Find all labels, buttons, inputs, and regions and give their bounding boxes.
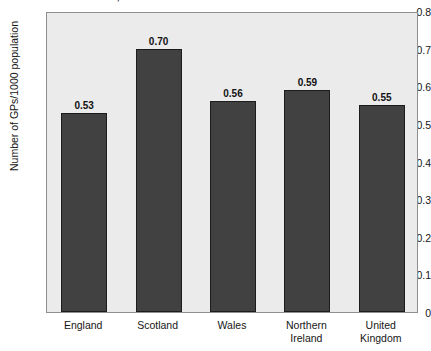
bar-chart-figure: countries, 2003 Number of GPs/1000 popul… — [0, 0, 431, 351]
bar[interactable] — [284, 90, 330, 312]
x-axis-tick-label: UnitedKingdom — [336, 319, 426, 344]
bar-value-label: 0.70 — [129, 36, 189, 47]
bar-value-label: 0.59 — [277, 77, 337, 88]
chart-title: countries, 2003 — [70, 0, 370, 2]
bar-value-label: 0.55 — [352, 92, 412, 103]
bar[interactable] — [359, 105, 405, 312]
bar[interactable] — [136, 49, 182, 312]
bar[interactable] — [61, 113, 107, 312]
plot-area: 0.530.700.560.590.55 — [46, 12, 418, 313]
plot-inner: 0.530.700.560.590.55 — [47, 13, 417, 312]
bar-value-label: 0.56 — [203, 88, 263, 99]
bar-value-label: 0.53 — [54, 100, 114, 111]
bar[interactable] — [210, 101, 256, 312]
y-axis-title: Number of GPs/1000 population — [8, 6, 20, 186]
